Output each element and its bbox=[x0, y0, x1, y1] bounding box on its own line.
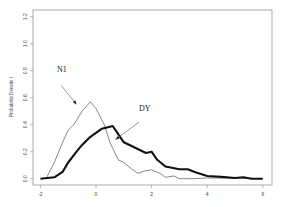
annotation-arrow bbox=[115, 122, 139, 140]
y-axis: 0.00.20.40.60.81.01.2 bbox=[22, 13, 33, 182]
y-tick-label: 1.2 bbox=[22, 13, 28, 20]
x-tick-label: 0 bbox=[95, 191, 98, 197]
x-tick-label: 2 bbox=[150, 191, 153, 197]
y-tick-label: 0.0 bbox=[22, 175, 28, 182]
series-dy-line bbox=[40, 126, 262, 179]
x-tick-label: -2 bbox=[38, 191, 43, 197]
x-tick-label: 6 bbox=[261, 191, 264, 197]
series-n1-line bbox=[46, 102, 263, 179]
y-tick-label: 0.2 bbox=[22, 148, 28, 155]
y-tick-label: 0.4 bbox=[22, 121, 28, 128]
x-tick-label: 4 bbox=[206, 191, 209, 197]
y-axis-label: Probability Density I bbox=[9, 77, 14, 117]
x-axis: -20246 bbox=[38, 185, 264, 197]
y-tick-label: 0.8 bbox=[22, 67, 28, 74]
y-tick-label: 1.0 bbox=[22, 40, 28, 47]
plot-frame bbox=[33, 10, 272, 185]
y-tick-label: 0.6 bbox=[22, 94, 28, 101]
annotation-dy: DY bbox=[139, 104, 151, 113]
annotation-n1: N1 bbox=[57, 65, 67, 74]
density-chart: 0.00.20.40.60.81.01.2 -20246 Probability… bbox=[0, 0, 283, 207]
